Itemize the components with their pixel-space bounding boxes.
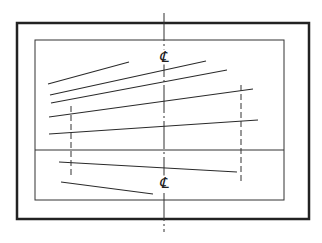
oblique-line-4 xyxy=(49,89,253,117)
oblique-line-3 xyxy=(51,70,227,103)
oblique-line-5 xyxy=(49,120,258,134)
diagram-canvas xyxy=(0,0,322,243)
oblique-lines xyxy=(48,61,258,194)
oblique-line-7 xyxy=(61,182,153,194)
centerline-symbol-top: ℄ xyxy=(158,50,170,65)
oblique-line-6 xyxy=(59,162,237,172)
centerline-symbol-bottom: ℄ xyxy=(158,176,170,191)
dashed-verticals xyxy=(71,85,241,184)
